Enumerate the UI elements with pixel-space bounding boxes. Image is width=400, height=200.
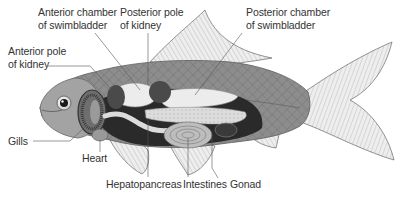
heart [92,129,108,141]
gills [78,90,106,134]
kidney-anterior-pole [107,85,125,109]
label-posterior-chamber-of-swimbladder: Posterior chamber of swimbladder [246,6,330,32]
label-line-1: Anterior pole [8,45,66,58]
label-gills: Gills [8,135,28,148]
label-heart: Heart [82,152,107,165]
label-anterior-chamber-of-swimbladder: Anterior chamber of swimbladder [38,6,117,32]
label-line-1: Posterior pole [120,6,183,19]
label-gonad: Gonad [230,178,261,191]
label-line-2: of swimbladder [38,19,117,32]
caudal-fin [300,42,394,160]
label-line-2: of swimbladder [246,19,330,32]
label-posterior-pole-of-kidney: Posterior pole of kidney [120,6,183,32]
label-line-1: Posterior chamber [246,6,330,19]
label-line-1: Anterior chamber [38,6,117,19]
label-hepatopancreas: Hepatopancreas [106,178,182,191]
label-line-2: of kidney [8,58,66,71]
kidney-posterior-pole [149,81,171,103]
label-anterior-pole-of-kidney: Anterior pole of kidney [8,45,66,71]
gonad [215,123,237,137]
label-intestines: Intestines [183,178,227,191]
label-line-2: of kidney [120,19,183,32]
